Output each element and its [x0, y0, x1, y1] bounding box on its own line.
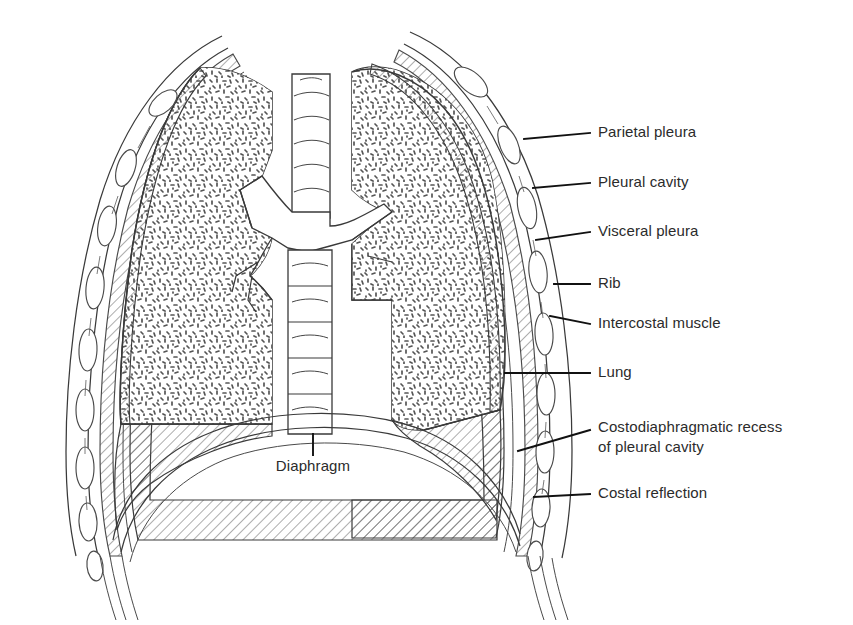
- label-rib: Rib: [598, 274, 621, 291]
- label-costodiaphragmatic-recess-line1: Costodiaphragmatic recess: [598, 418, 782, 435]
- label-parietal-pleura: Parietal pleura: [598, 123, 697, 140]
- label-diaphragm: Diaphragm: [276, 457, 350, 474]
- label-visceral-pleura: Visceral pleura: [598, 222, 699, 239]
- trachea: [292, 74, 330, 218]
- label-costal-reflection: Costal reflection: [598, 484, 707, 501]
- vertebral-column: [288, 250, 332, 434]
- label-costodiaphragmatic-recess-line2: of pleural cavity: [598, 438, 704, 455]
- label-intercostal-muscle: Intercostal muscle: [598, 314, 721, 331]
- anatomical-figure: Parietal pleura Pleural cavity Visceral …: [0, 0, 853, 625]
- label-lung: Lung: [598, 363, 632, 380]
- label-pleural-cavity: Pleural cavity: [598, 173, 689, 190]
